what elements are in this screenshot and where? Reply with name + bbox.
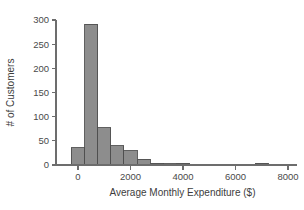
y-tick-label: 150 (33, 87, 49, 98)
x-tick-label: 2000 (120, 171, 141, 182)
y-tick-label: 50 (38, 135, 49, 146)
y-tick-label: 200 (33, 63, 49, 74)
x-axis-title: Average Monthly Expenditure ($) (109, 187, 255, 198)
y-tick-label: 250 (33, 39, 49, 50)
histogram-bar (111, 146, 124, 165)
chart-canvas: 05010015020025030002000400060008000Avera… (0, 0, 304, 210)
bars-group (71, 24, 268, 165)
x-tick-label: 6000 (225, 171, 246, 182)
histogram-bar (137, 159, 150, 165)
x-tick-label: 0 (75, 171, 80, 182)
histogram-figure: 05010015020025030002000400060008000Avera… (0, 0, 304, 210)
histogram-bar (71, 148, 84, 165)
y-axis-title: # of Customers (5, 59, 16, 127)
y-tick-label: 100 (33, 111, 49, 122)
histogram-bar (124, 151, 137, 165)
histogram-bar (98, 128, 111, 165)
x-tick-label: 4000 (172, 171, 193, 182)
y-tick-label: 300 (33, 14, 49, 25)
histogram-bar (85, 24, 98, 165)
y-tick-label: 0 (44, 159, 49, 170)
x-tick-label: 8000 (277, 171, 298, 182)
